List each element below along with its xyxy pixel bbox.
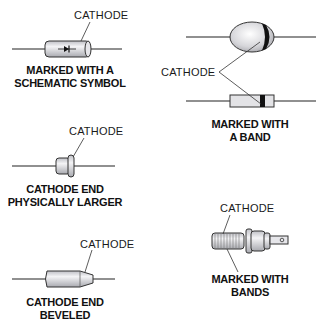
caption-beveled: CATHODE END BEVELED	[5, 296, 125, 322]
caption-line-1: MARKED WITH	[200, 118, 300, 131]
caption-bands: MARKED WITH BANDS	[200, 273, 300, 299]
caption-line-2: A BAND	[200, 131, 300, 144]
caption-line-1: CATHODE END	[5, 296, 125, 309]
cathode-callout-schematic: CATHODE	[74, 9, 128, 21]
caption-schematic: MARKED WITH A SCHEMATIC SYMBOL	[0, 64, 140, 90]
cathode-callout-larger: CATHODE	[69, 125, 123, 137]
diode-band-marked	[186, 22, 316, 107]
caption-line-1: CATHODE END	[0, 183, 130, 196]
cathode-callout-beveled: CATHODE	[80, 238, 134, 250]
caption-band: MARKED WITH A BAND	[200, 118, 300, 144]
diode-stud-bands	[212, 215, 288, 272]
caption-line-2: BEVELED	[5, 309, 125, 322]
cathode-callout-band: CATHODE	[161, 66, 215, 78]
caption-line-2: PHYSICALLY LARGER	[0, 196, 130, 209]
caption-line-2: BANDS	[200, 286, 300, 299]
diode-schematic-marked	[12, 22, 122, 57]
caption-line-1: MARKED WITH	[200, 273, 300, 286]
caption-larger: CATHODE END PHYSICALLY LARGER	[0, 183, 130, 209]
diode-larger-end	[12, 138, 115, 177]
cathode-callout-bands: CATHODE	[220, 202, 274, 214]
caption-line-2: SCHEMATIC SYMBOL	[0, 77, 140, 90]
caption-line-1: MARKED WITH A	[0, 64, 140, 77]
diode-cathode-diagram: CATHODE MARKED WITH A SCHEMATIC SYMBOL C…	[0, 0, 323, 324]
diode-beveled-end	[12, 250, 115, 287]
